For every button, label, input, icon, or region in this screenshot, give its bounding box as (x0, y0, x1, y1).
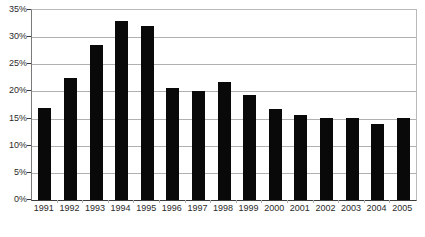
y-axis-tick-label: 25% (9, 59, 27, 68)
bar (166, 88, 179, 200)
x-axis-tick-mark (287, 200, 288, 203)
x-axis-tick-label: 2000 (264, 203, 284, 214)
x-axis-tick-mark (108, 200, 109, 203)
y-axis-tick-mark (27, 118, 31, 119)
x-axis-tick-mark (338, 200, 339, 203)
bar (294, 115, 307, 200)
x-axis: 1991199219931994199519961997199819992000… (31, 203, 415, 223)
x-axis-tick-label: 1999 (239, 203, 259, 214)
y-axis-tick-label: 20% (9, 86, 27, 95)
bar (141, 26, 154, 200)
x-axis-tick-label: 2004 (367, 203, 387, 214)
bar (269, 109, 282, 200)
bar (115, 21, 128, 200)
x-axis-tick-label: 2002 (315, 203, 335, 214)
bar (320, 118, 333, 201)
bar-chart: 0%5%10%15%20%25%30%35% 19911992199319941… (0, 0, 425, 237)
bar (90, 45, 103, 200)
y-axis-tick-mark (27, 63, 31, 64)
x-axis-tick-mark (210, 200, 211, 203)
x-axis-tick-label: 1998 (213, 203, 233, 214)
y-axis-tick-mark (27, 145, 31, 146)
bar (192, 91, 205, 200)
x-axis-tick-label: 2003 (341, 203, 361, 214)
bar (346, 118, 359, 201)
plot-area (31, 9, 417, 201)
x-axis-tick-label: 1992 (59, 203, 79, 214)
x-axis-tick-mark (133, 200, 134, 203)
x-axis-tick-mark (236, 200, 237, 203)
x-axis-tick-mark (313, 200, 314, 203)
x-axis-tick-label: 2001 (290, 203, 310, 214)
bar (218, 82, 231, 200)
x-axis-tick-label: 1995 (136, 203, 156, 214)
y-axis-tick-mark (27, 172, 31, 173)
bars-layer (32, 10, 416, 200)
y-axis-tick-label: 0% (14, 195, 27, 204)
y-axis-tick-mark (27, 90, 31, 91)
bar (397, 118, 410, 201)
y-axis-tick-label: 35% (9, 5, 27, 14)
y-axis-tick-mark (27, 36, 31, 37)
bar (38, 108, 51, 200)
x-axis-tick-mark (159, 200, 160, 203)
bar (64, 78, 77, 200)
bar (371, 124, 384, 200)
x-axis-tick-label: 1991 (34, 203, 54, 214)
x-axis-tick-label: 1997 (187, 203, 207, 214)
y-axis-tick-mark (27, 199, 31, 200)
y-axis-tick-label: 30% (9, 32, 27, 41)
y-axis-tick-label: 15% (9, 113, 27, 122)
x-axis-tick-label: 2005 (392, 203, 412, 214)
y-axis-tick-label: 5% (14, 167, 27, 176)
x-axis-tick-mark (57, 200, 58, 203)
y-axis: 0%5%10%15%20%25%30%35% (0, 0, 29, 237)
x-axis-tick-mark (185, 200, 186, 203)
y-axis-tick-mark (27, 9, 31, 10)
x-axis-tick-label: 1993 (85, 203, 105, 214)
x-axis-tick-mark (364, 200, 365, 203)
y-axis-tick-label: 10% (9, 140, 27, 149)
x-axis-tick-label: 1994 (111, 203, 131, 214)
bar (243, 95, 256, 200)
x-axis-tick-mark (82, 200, 83, 203)
x-axis-tick-label: 1996 (162, 203, 182, 214)
x-axis-tick-mark (261, 200, 262, 203)
x-axis-tick-mark (389, 200, 390, 203)
